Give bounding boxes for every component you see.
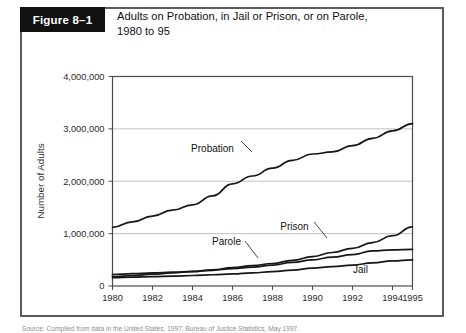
figure-title: Adults on Probation, in Jail or Prison, … (117, 9, 437, 39)
figure-number-label: Figure 8–1 (33, 14, 93, 26)
source-note: Source: Compiled from data in the United… (22, 325, 462, 333)
figure-title-line-2: 1980 to 95 (117, 24, 437, 39)
figure-number-badge: Figure 8–1 (20, 7, 105, 32)
figure-box (20, 7, 444, 317)
figure-title-line-1: Adults on Probation, in Jail or Prison, … (117, 9, 437, 24)
